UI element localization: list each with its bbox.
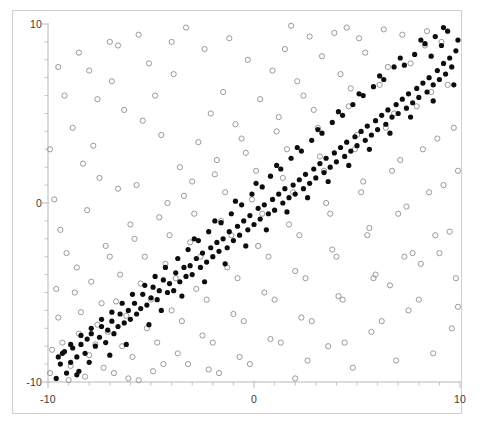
y-axis-tick-label-bottom: -10: [12, 376, 42, 388]
y-axis-tick-label-mid: 0: [16, 197, 42, 209]
x-axis-tick-label-right: 10: [444, 393, 476, 405]
x-axis-tick-label-mid: 0: [238, 393, 270, 405]
y-axis-tick-label-top: 10: [16, 18, 42, 30]
plot-frame: [12, 10, 462, 414]
x-axis-tick-label-left: -10: [32, 393, 64, 405]
scatter-plot-figure: 10 0 -10 -10 0 10: [0, 0, 493, 429]
